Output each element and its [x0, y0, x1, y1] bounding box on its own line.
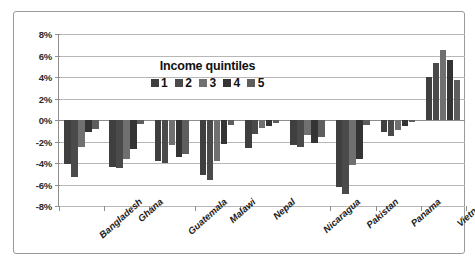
x-axis-label-nicaragua: Nicaragua	[321, 196, 362, 235]
bar	[85, 120, 91, 132]
legend-item-4: 4	[223, 76, 240, 90]
x-axis-label-panama: Panama	[409, 196, 443, 229]
bar	[342, 120, 348, 194]
y-axis-tick-label: -4%	[36, 158, 52, 169]
bar	[162, 120, 168, 163]
y-axis-tick-label: -2%	[36, 136, 52, 147]
bar	[290, 120, 296, 145]
bar	[363, 120, 369, 125]
legend-label: 4	[234, 76, 241, 90]
bar	[245, 120, 251, 148]
legend-item-3: 3	[199, 76, 216, 90]
chart-legend: Income quintiles 12345	[120, 59, 295, 90]
legend-label: 1	[161, 76, 168, 90]
bar	[440, 50, 446, 120]
legend-item-2: 2	[175, 76, 192, 90]
bar	[426, 77, 432, 120]
chart-container: 8%6%4%2%0%-2%-4%-6%-8% Income quintiles …	[0, 0, 475, 273]
legend-label: 2	[185, 76, 192, 90]
x-axis-label-nepal: Nepal	[270, 196, 297, 221]
bar	[176, 120, 182, 157]
legend-swatch-icon	[199, 79, 207, 87]
bar	[109, 120, 115, 167]
legend-item-5: 5	[247, 76, 264, 90]
bar	[356, 120, 362, 159]
bar	[130, 120, 136, 149]
bar-group	[59, 34, 104, 206]
bar	[207, 120, 213, 180]
bar	[297, 120, 303, 147]
bar	[349, 120, 355, 165]
legend-label: 3	[209, 76, 216, 90]
bar-group	[421, 34, 466, 206]
bar	[304, 120, 310, 135]
y-axis-tick-label: 2%	[39, 93, 52, 104]
bar	[228, 120, 234, 125]
bar	[266, 120, 272, 126]
x-axis-label-malawi: Malawi	[227, 196, 258, 225]
y-axis-tick-label: 4%	[39, 72, 52, 83]
bar	[71, 120, 77, 177]
legend-swatch-icon	[151, 79, 159, 87]
legend-swatch-icon	[223, 79, 231, 87]
bar	[155, 120, 161, 161]
bar	[259, 120, 265, 128]
bar	[78, 120, 84, 147]
legend-item-1: 1	[151, 76, 168, 90]
bar	[311, 120, 317, 143]
bar	[116, 120, 122, 168]
bar	[221, 120, 227, 144]
legend-label: 5	[258, 76, 265, 90]
bar	[252, 120, 258, 134]
y-axis-tick-label: 8%	[39, 29, 52, 40]
legend-title: Income quintiles	[120, 59, 295, 73]
bar	[169, 120, 175, 145]
legend-items: 12345	[120, 76, 295, 90]
bar	[402, 120, 408, 126]
legend-swatch-icon	[175, 79, 183, 87]
bar	[182, 120, 188, 154]
x-axis-labels: BangladeshGhanaGuatemalaMalawiNepalNicar…	[44, 196, 451, 266]
bar	[433, 63, 439, 120]
y-axis-tick-label: 6%	[39, 50, 52, 61]
bar-group	[330, 34, 375, 206]
bar	[273, 120, 279, 123]
bar	[395, 120, 401, 130]
bar	[137, 120, 143, 124]
bar	[388, 120, 394, 136]
bar	[64, 120, 70, 164]
legend-swatch-icon	[247, 79, 255, 87]
bar	[200, 120, 206, 175]
bar	[214, 120, 220, 161]
bar	[409, 120, 415, 122]
bar-group	[376, 34, 421, 206]
x-axis-label-pakistan: Pakistan	[364, 196, 400, 230]
bar	[123, 120, 129, 159]
x-axis-label-guatemala: Guatemala	[186, 196, 229, 237]
bar	[92, 120, 98, 129]
bar	[381, 120, 387, 132]
y-axis-tick-label: 0%	[39, 115, 52, 126]
y-axis-tick-label: -6%	[36, 179, 52, 190]
bar	[336, 120, 342, 187]
bar	[447, 60, 453, 120]
bar	[318, 120, 324, 137]
bar	[454, 80, 460, 120]
